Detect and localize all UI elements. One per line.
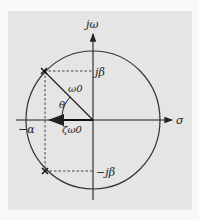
real-part-label: −α (18, 123, 35, 136)
upper-pole-imag-label: jβ (92, 66, 105, 79)
radius-label: ω0 (68, 83, 83, 94)
angle-label: θ (59, 99, 65, 110)
real-axis-label: σ (176, 114, 184, 127)
imag-axis-label: jω (83, 18, 98, 31)
damping-projection-label: ζω0 (62, 124, 83, 135)
lower-pole-imag-label: −jβ (96, 166, 115, 179)
s-plane-diagram: jω σ jβ −jβ −α ω0 θ ζω0 (0, 0, 199, 220)
radius-line (44, 71, 93, 120)
